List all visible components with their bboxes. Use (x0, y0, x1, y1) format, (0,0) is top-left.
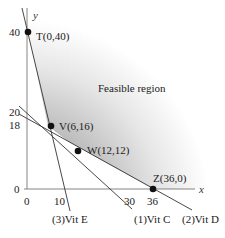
tick-y40: 40 (9, 26, 21, 38)
vertex-w (75, 148, 82, 155)
y-axis-label: y (32, 9, 38, 21)
tick-y18: 18 (9, 119, 21, 131)
vertex-v-label: V(6,16) (59, 120, 94, 133)
vertex-w-label: W(12,12) (87, 144, 130, 157)
tick-x0: 0 (24, 195, 30, 207)
x-axis-label: x (198, 183, 204, 195)
vit-d-label: (2)Vit D (182, 213, 219, 226)
feasible-region-label: Feasible region (98, 82, 166, 94)
vertex-t (25, 29, 32, 36)
tick-y0: 0 (14, 183, 20, 195)
tick-y20: 20 (9, 106, 21, 118)
vertex-z (150, 186, 157, 193)
feasible-region-chart: 40 20 18 0 0 10 30 36 y x T(0,40) V(6,16… (0, 0, 225, 238)
tick-x30: 30 (124, 195, 136, 207)
vertex-v (48, 123, 55, 130)
tick-x10: 10 (54, 195, 66, 207)
vit-c-label: (1)Vit C (134, 213, 170, 226)
tick-x36: 36 (147, 195, 159, 207)
vertex-z-label: Z(36,0) (153, 172, 187, 185)
vit-e-label: (3)Vit E (52, 213, 88, 226)
vertex-t-label: T(0,40) (36, 30, 70, 43)
